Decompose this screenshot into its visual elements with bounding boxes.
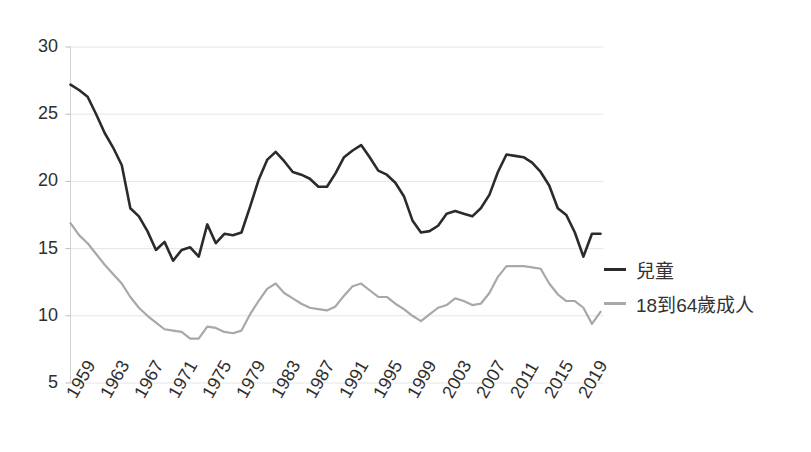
x-tick-label: 1975 <box>199 357 235 401</box>
x-tick-label: 1967 <box>131 357 167 401</box>
chart-container: 51015202530 1959196319671971197519791983… <box>0 0 811 452</box>
legend-item-0[interactable]: 兒童 <box>604 252 809 286</box>
x-tick-label: 2011 <box>507 358 542 401</box>
x-tick-label: 2007 <box>473 357 509 401</box>
x-tick-label: 1991 <box>336 357 372 401</box>
legend-item-1[interactable]: 18到64歲成人 <box>604 286 809 320</box>
chart-legend: 兒童18到64歲成人 <box>604 252 809 320</box>
x-tick-label: 1959 <box>63 357 99 401</box>
x-tick-label: 1995 <box>370 357 406 401</box>
x-tick-label: 2019 <box>575 357 611 401</box>
x-tick-label: 1999 <box>404 357 440 401</box>
x-tick-label: 1979 <box>233 357 269 401</box>
legend-line-swatch-icon <box>604 302 626 305</box>
x-tick-label: 2015 <box>541 357 577 401</box>
x-tick-label: 2003 <box>439 357 475 401</box>
legend-label: 18到64歲成人 <box>636 290 754 317</box>
x-axis-tick-labels: 1959196319671971197519791983198719911995… <box>0 0 811 452</box>
x-tick-label: 1983 <box>268 357 304 401</box>
legend-line-swatch-icon <box>604 268 626 271</box>
x-tick-label: 1987 <box>302 357 338 401</box>
legend-label: 兒童 <box>636 256 674 283</box>
x-tick-label: 1963 <box>97 357 133 401</box>
x-tick-label: 1971 <box>165 357 201 401</box>
